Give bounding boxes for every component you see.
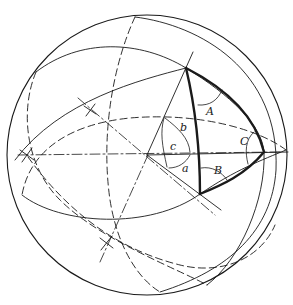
- label-angle-A: A: [205, 105, 214, 118]
- great-circle-back-2: [27, 72, 207, 285]
- great-circle-back-4: [28, 157, 275, 268]
- label-side-a: a: [182, 162, 189, 175]
- label-side-c: c: [170, 140, 176, 153]
- arc-c: [162, 118, 167, 167]
- label-angle-B: B: [213, 164, 222, 177]
- great-circle-front-4: [15, 68, 186, 160]
- spherical-triangle-diagram: A B C a b c: [0, 0, 293, 305]
- great-circle-front-5: [18, 194, 200, 233]
- angle-arc-A: [198, 90, 222, 105]
- label-side-b: b: [180, 121, 187, 134]
- great-circle-front-2: [36, 47, 264, 285]
- label-angle-C: C: [240, 135, 249, 148]
- triangle-side-bottom-top: [186, 68, 200, 194]
